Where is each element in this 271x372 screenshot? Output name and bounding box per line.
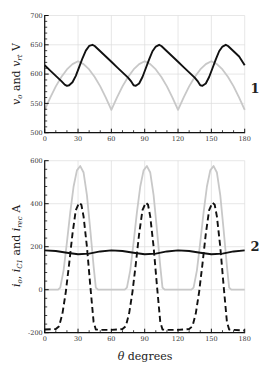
x-tick-label: 0 bbox=[43, 135, 47, 143]
bottom-plot-current: -20002004006000306090120150180 bbox=[28, 157, 251, 343]
x-tick-label: 30 bbox=[74, 335, 82, 343]
bottom-y-axis-label: io, iC1 and irec A bbox=[10, 204, 24, 287]
x-tick-label: 90 bbox=[141, 135, 149, 143]
axes: 5005506006507000306090120150180 bbox=[30, 12, 251, 143]
x-tick-label: 30 bbox=[74, 135, 82, 143]
panel-label-2: 2 bbox=[250, 239, 259, 254]
x-tick-label: 180 bbox=[238, 135, 250, 143]
chart-figure: 5005506006507000306090120150180 -2000200… bbox=[0, 0, 271, 372]
y-tick-label: 500 bbox=[30, 129, 42, 137]
x-axis-label: θ degrees bbox=[118, 350, 173, 363]
x-tick-label: 180 bbox=[238, 335, 250, 343]
y-tick-label: 200 bbox=[30, 243, 42, 251]
y-tick-label: -200 bbox=[28, 329, 43, 337]
y-tick-label: 650 bbox=[30, 41, 42, 49]
x-tick-label: 60 bbox=[107, 335, 115, 343]
y-tick-label: 400 bbox=[30, 200, 42, 208]
x-tick-label: 150 bbox=[205, 335, 217, 343]
top-plot-voltage: 5005506006507000306090120150180 bbox=[30, 12, 251, 143]
x-tick-label: 150 bbox=[205, 135, 217, 143]
x-tick-label: 120 bbox=[172, 135, 184, 143]
grid-lines bbox=[45, 161, 245, 333]
x-tick-label: 0 bbox=[43, 335, 47, 343]
panel-label-1: 1 bbox=[250, 81, 259, 96]
y-tick-label: 600 bbox=[30, 70, 42, 78]
top-y-axis-label: vo and vrt V bbox=[10, 42, 24, 105]
x-tick-label: 90 bbox=[141, 335, 149, 343]
grid-lines bbox=[45, 16, 245, 133]
y-tick-label: 0 bbox=[39, 286, 43, 294]
y-tick-label: 600 bbox=[30, 157, 42, 165]
axes: -20002004006000306090120150180 bbox=[28, 157, 251, 343]
y-tick-label: 550 bbox=[30, 100, 42, 108]
x-tick-label: 120 bbox=[172, 335, 184, 343]
y-tick-label: 700 bbox=[30, 12, 42, 20]
x-tick-label: 60 bbox=[107, 135, 115, 143]
